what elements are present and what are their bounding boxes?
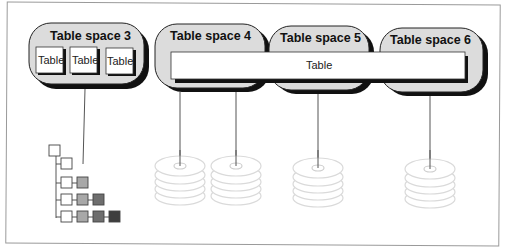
connectors: [83, 89, 430, 168]
table-box: Table: [106, 48, 136, 76]
tablespace-6-label: Table space 6: [390, 33, 471, 47]
table-box: Table: [70, 47, 100, 75]
tablespace-5-label: Table space 5: [280, 31, 361, 45]
tablespace-3-label: Table space 3: [50, 29, 131, 43]
svg-text:Table: Table: [72, 54, 98, 66]
tablespace-3: Table space 3 Table Table Table: [29, 23, 149, 89]
tree-hierarchy-icon: [49, 145, 120, 222]
svg-text:Table: Table: [38, 54, 64, 66]
tablespace-4-label: Table space 4: [170, 29, 251, 43]
spanning-table: Table: [171, 52, 468, 83]
tablespace-diagram: Table space 3 Table Table Table Table sp…: [0, 0, 506, 252]
spanning-table-label: Table: [306, 59, 332, 71]
table-box: Table: [36, 47, 66, 75]
svg-text:Table: Table: [107, 55, 133, 67]
